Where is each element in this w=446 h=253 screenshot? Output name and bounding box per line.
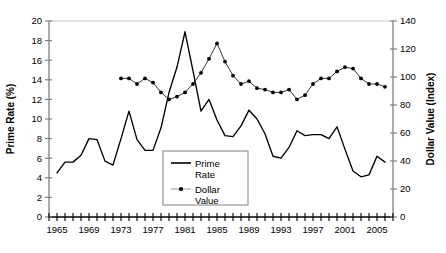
x-axis-tick-label: 1981 — [174, 224, 195, 235]
data-point — [351, 67, 355, 71]
series-markers-dollar-value — [119, 42, 387, 102]
data-point — [327, 77, 331, 81]
left-axis-title: Prime Rate (%) — [5, 84, 16, 155]
legend-label-prime-rate-line1: Prime — [195, 158, 220, 169]
data-point — [359, 77, 363, 81]
dual-axis-line-chart: 0246810121416182002040608010012014019651… — [0, 0, 446, 253]
x-axis-tick-label: 1985 — [206, 224, 227, 235]
data-point — [311, 82, 315, 86]
legend: PrimeRateDollarValue — [163, 151, 248, 206]
data-point — [175, 95, 179, 99]
left-axis-tick-label: 10 — [31, 113, 42, 124]
left-axis-tick-label: 0 — [37, 211, 42, 222]
legend-swatch-dollar-value-marker — [179, 187, 183, 191]
data-point — [263, 88, 267, 92]
data-point — [215, 42, 219, 46]
legend-label-dollar-value-line2: Value — [195, 195, 219, 206]
data-point — [375, 82, 379, 86]
data-point — [159, 91, 163, 95]
right-axis-tick-label: 100 — [400, 71, 416, 82]
legend-label-dollar-value-line1: Dollar — [195, 184, 220, 195]
x-axis-tick-label: 1989 — [238, 224, 259, 235]
left-axis-tick-label: 6 — [37, 153, 42, 164]
left-axis-tick-label: 20 — [31, 15, 42, 26]
x-axis-tick-label: 1993 — [270, 224, 291, 235]
left-axis-tick-label: 14 — [31, 74, 42, 85]
data-point — [151, 81, 155, 85]
right-axis-tick-label: 80 — [400, 99, 411, 110]
data-point — [167, 98, 171, 102]
x-axis-tick-label: 1997 — [302, 224, 323, 235]
left-axis-tick-label: 18 — [31, 35, 42, 46]
data-point — [191, 82, 195, 86]
x-axis-tick-label: 1977 — [142, 224, 163, 235]
data-point — [343, 65, 347, 69]
data-point — [383, 85, 387, 89]
left-axis-tick-label: 8 — [37, 133, 42, 144]
data-point — [135, 82, 139, 86]
chart-container: 0246810121416182002040608010012014019651… — [0, 0, 446, 253]
data-point — [143, 77, 147, 81]
right-axis-tick-label: 0 — [400, 211, 405, 222]
right-axis-tick-label: 20 — [400, 183, 411, 194]
data-point — [279, 91, 283, 95]
left-axis-tick-label: 16 — [31, 55, 42, 66]
data-point — [119, 77, 123, 81]
x-axis-tick-label: 1965 — [46, 224, 67, 235]
data-point — [223, 60, 227, 64]
data-point — [127, 77, 131, 81]
x-axis-tick-label: 1969 — [78, 224, 99, 235]
data-point — [271, 91, 275, 95]
data-point — [319, 77, 323, 81]
right-axis-title: Dollar Value (Index) — [425, 73, 436, 166]
right-axis-tick-label: 120 — [400, 43, 416, 54]
data-point — [367, 82, 371, 86]
right-axis-tick-label: 140 — [400, 15, 416, 26]
data-point — [303, 93, 307, 97]
x-axis-tick-label: 2001 — [334, 224, 355, 235]
data-point — [287, 88, 291, 92]
data-point — [239, 82, 243, 86]
x-axis-tick-label: 1973 — [110, 224, 131, 235]
left-axis-tick-label: 12 — [31, 94, 42, 105]
legend-label-prime-rate-line2: Rate — [195, 169, 215, 180]
data-point — [255, 86, 259, 90]
data-point — [231, 74, 235, 78]
data-point — [335, 70, 339, 74]
data-point — [207, 57, 211, 61]
data-point — [199, 71, 203, 75]
data-point — [247, 79, 251, 83]
left-axis-tick-label: 2 — [37, 192, 42, 203]
right-axis-tick-label: 60 — [400, 127, 411, 138]
data-point — [295, 98, 299, 102]
right-axis-tick-label: 40 — [400, 155, 411, 166]
data-point — [183, 91, 187, 95]
x-axis-tick-label: 2005 — [366, 224, 387, 235]
left-axis-tick-label: 4 — [37, 172, 42, 183]
